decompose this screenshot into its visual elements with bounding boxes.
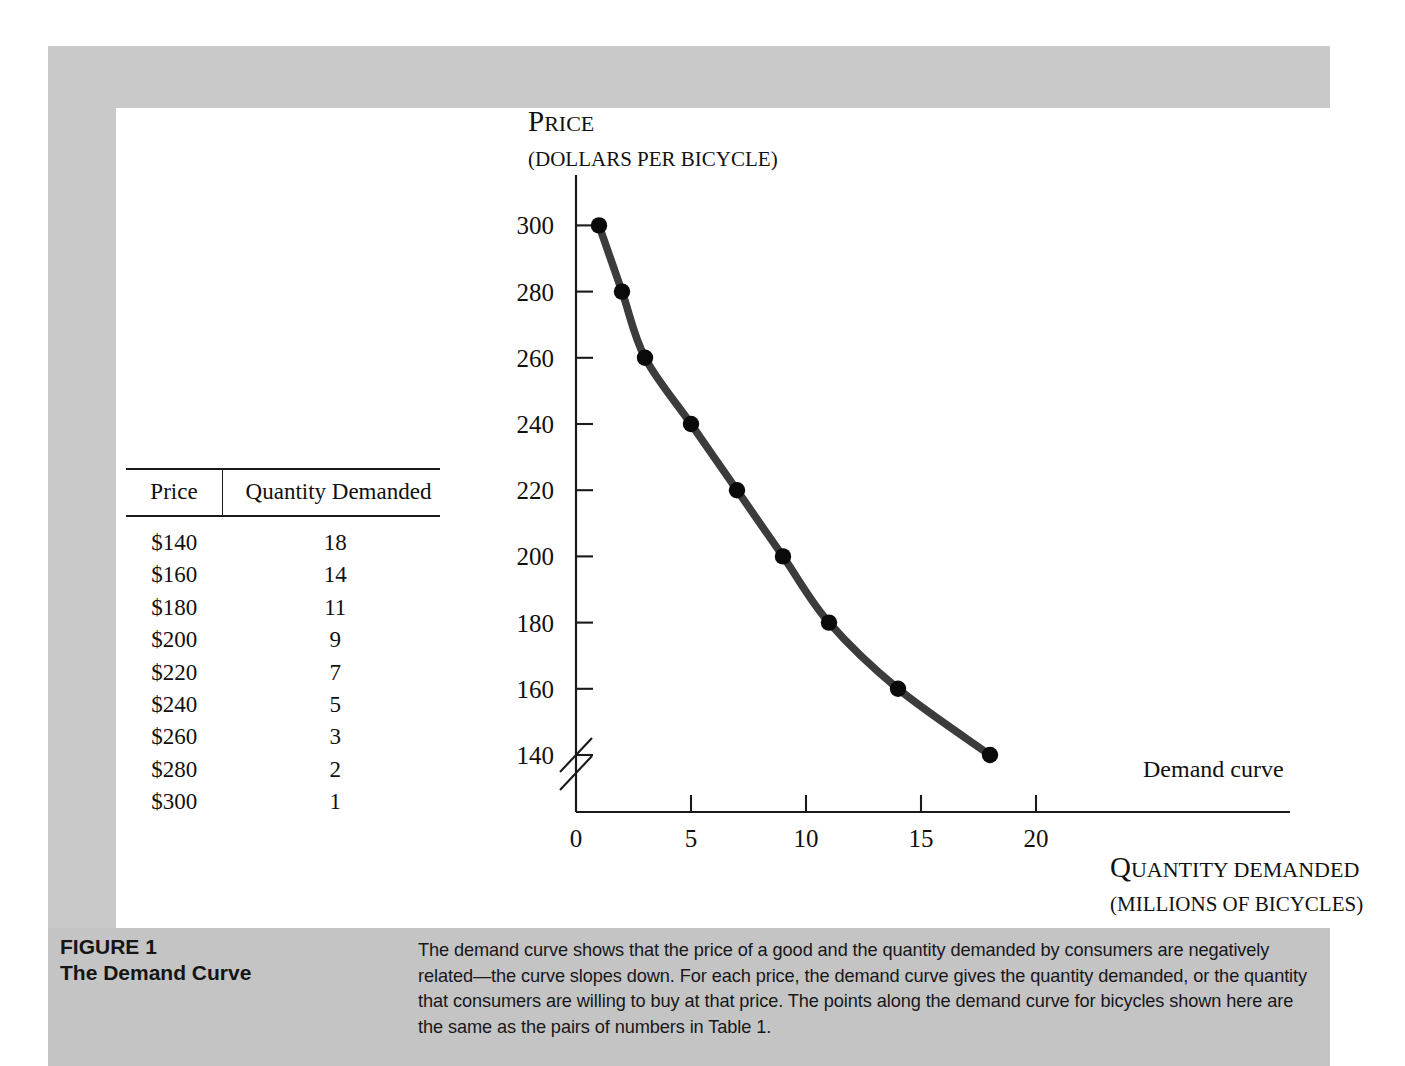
cell-price: $140: [126, 516, 223, 559]
table-row: $16014: [126, 559, 440, 591]
table: Price Quantity Demanded $14018$16014$180…: [126, 468, 440, 818]
table-row: $2405: [126, 689, 440, 721]
table-row: $2009: [126, 624, 440, 656]
table-row: $14018: [126, 516, 440, 559]
cell-quantity: 11: [223, 592, 441, 624]
table-body: $14018$16014$18011$2009$2207$2405$2603$2…: [126, 516, 440, 818]
cell-price: $240: [126, 689, 223, 721]
cell-quantity: 9: [223, 624, 441, 656]
table-row: $2802: [126, 753, 440, 785]
table-row: $18011: [126, 592, 440, 624]
cell-quantity: 2: [223, 753, 441, 785]
table-header-quantity: Quantity Demanded: [223, 469, 441, 516]
table-header-price: Price: [126, 469, 223, 516]
table-row: $2207: [126, 656, 440, 688]
table-row: $2603: [126, 721, 440, 753]
figure-title: The Demand Curve: [60, 960, 400, 986]
cell-price: $160: [126, 559, 223, 591]
cell-price: $260: [126, 721, 223, 753]
demand-schedule-table: Price Quantity Demanded $14018$16014$180…: [126, 468, 440, 818]
table-row: $3001: [126, 786, 440, 818]
table-head: Price Quantity Demanded: [126, 469, 440, 516]
figure-caption-heading: FIGURE 1 The Demand Curve: [60, 934, 400, 986]
cell-quantity: 18: [223, 516, 441, 559]
cell-price: $300: [126, 786, 223, 818]
cell-quantity: 14: [223, 559, 441, 591]
cell-price: $180: [126, 592, 223, 624]
figure-caption-text: The demand curve shows that the price of…: [418, 938, 1318, 1040]
cell-quantity: 5: [223, 689, 441, 721]
cell-price: $200: [126, 624, 223, 656]
cell-price: $280: [126, 753, 223, 785]
cell-price: $220: [126, 656, 223, 688]
cell-quantity: 3: [223, 721, 441, 753]
table-header-row: Price Quantity Demanded: [126, 469, 440, 516]
cell-quantity: 7: [223, 656, 441, 688]
cell-quantity: 1: [223, 786, 441, 818]
figure-number: FIGURE 1: [60, 934, 400, 960]
